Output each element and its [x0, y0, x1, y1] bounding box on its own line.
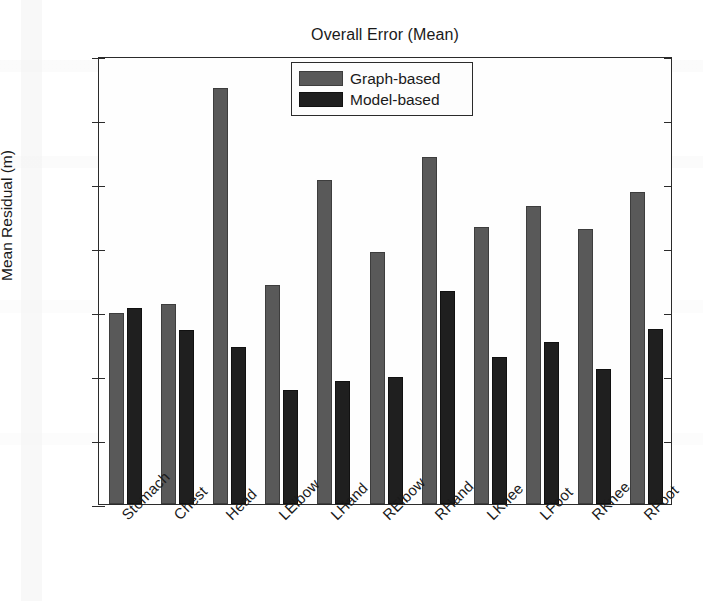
y-axis-tick-right	[664, 122, 671, 123]
bar-rfoot-graph-based	[630, 192, 645, 504]
bar-rhand-graph-based	[422, 157, 437, 504]
y-axis-tick	[92, 250, 99, 251]
y-axis-tick-inner	[99, 378, 105, 379]
legend-item-model-based: Model-based	[299, 89, 465, 110]
bar-head-model-based	[231, 347, 246, 504]
chart-figure: Overall Error (Mean) 00.020.040.060.080.…	[0, 0, 703, 601]
y-axis-tick-right	[664, 58, 671, 59]
y-axis-tick-inner	[99, 250, 105, 251]
bar-lfoot-model-based	[544, 342, 559, 504]
y-axis-tick-inner	[99, 506, 105, 507]
bar-head-graph-based	[213, 88, 228, 504]
y-axis-tick-inner	[99, 186, 105, 187]
bar-relbow-graph-based	[370, 252, 385, 504]
bar-stomach-model-based	[127, 308, 142, 504]
y-axis-title: Mean Residual (m)	[0, 150, 16, 281]
bar-lhand-graph-based	[317, 180, 332, 504]
y-axis-tick	[92, 122, 99, 123]
legend-swatch-model-based	[299, 92, 343, 107]
bar-lelbow-graph-based	[265, 285, 280, 504]
legend-item-graph-based: Graph-based	[299, 68, 465, 89]
legend-label-model-based: Model-based	[350, 91, 440, 109]
bar-lknee-model-based	[492, 357, 507, 504]
y-axis-tick-right	[664, 314, 671, 315]
legend-label-graph-based: Graph-based	[350, 70, 440, 88]
plot-inner: 00.020.040.060.080.10.120.14	[99, 58, 671, 504]
y-axis-tick-right	[664, 442, 671, 443]
y-axis-tick	[92, 186, 99, 187]
chart-title: Overall Error (Mean)	[98, 26, 672, 44]
y-axis-tick	[92, 506, 99, 507]
y-axis-tick-right	[664, 186, 671, 187]
bar-rhand-model-based	[440, 291, 455, 504]
y-axis-tick-right	[664, 378, 671, 379]
y-axis-tick	[92, 442, 99, 443]
y-axis-tick-inner	[99, 122, 105, 123]
bar-rknee-graph-based	[578, 229, 593, 504]
bar-lhand-model-based	[335, 381, 350, 504]
y-axis-tick-inner	[99, 58, 105, 59]
bar-relbow-model-based	[388, 377, 403, 504]
chart-legend: Graph-based Model-based	[291, 62, 473, 116]
legend-swatch-graph-based	[299, 71, 343, 86]
y-axis-tick	[92, 314, 99, 315]
bar-lelbow-model-based	[283, 390, 298, 504]
bar-rfoot-model-based	[648, 329, 663, 504]
bar-rknee-model-based	[596, 369, 611, 504]
y-axis-tick-right	[664, 250, 671, 251]
bar-chest-model-based	[179, 330, 194, 504]
bar-lknee-graph-based	[474, 227, 489, 504]
y-axis-tick	[92, 58, 99, 59]
y-axis-tick-inner	[99, 442, 105, 443]
y-axis-tick-inner	[99, 314, 105, 315]
plot-area: 00.020.040.060.080.10.120.14	[98, 57, 672, 505]
bar-lfoot-graph-based	[526, 206, 541, 504]
y-axis-tick	[92, 378, 99, 379]
bar-stomach-graph-based	[109, 313, 124, 504]
